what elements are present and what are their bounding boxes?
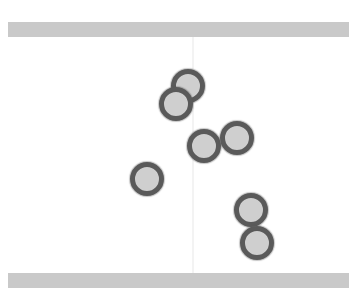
bottom-wall [8,273,349,288]
ball-2 [159,87,193,121]
ball-3 [187,129,221,163]
top-wall [8,22,349,37]
ball-4 [220,121,254,155]
ball-7 [240,226,274,260]
simulation-canvas [0,0,349,302]
ball-5 [130,162,164,196]
ball-6 [234,193,268,227]
